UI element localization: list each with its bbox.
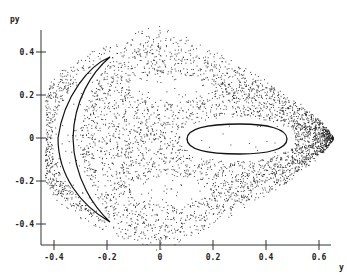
x-axis-ticks: -0.4-0.200.20.40.6 <box>44 240 326 262</box>
x-axis-label: y <box>339 263 344 272</box>
y-tick-label: 0 <box>29 134 34 143</box>
oval-orbit-curve <box>187 124 287 154</box>
x-tick-label: -0.2 <box>97 253 116 262</box>
x-tick-label: 0.4 <box>259 253 274 262</box>
y-tick-label: 0.2 <box>20 91 35 100</box>
y-axis-label: py <box>10 15 20 24</box>
x-tick-label: 0 <box>158 253 163 262</box>
x-tick-label: 0.2 <box>206 253 221 262</box>
chaotic-sea-points <box>45 26 334 250</box>
x-tick-label: 0.6 <box>312 253 327 262</box>
crescent-orbit-curve <box>58 57 110 222</box>
y-tick-label: 0.4 <box>20 48 35 57</box>
y-tick-label: -0.4 <box>15 220 34 229</box>
poincare-section-plot: -0.4-0.200.20.40.6 -0.4-0.200.20.4 py y <box>0 0 347 277</box>
x-tick-label: -0.4 <box>44 253 63 262</box>
y-tick-label: -0.2 <box>15 177 34 186</box>
